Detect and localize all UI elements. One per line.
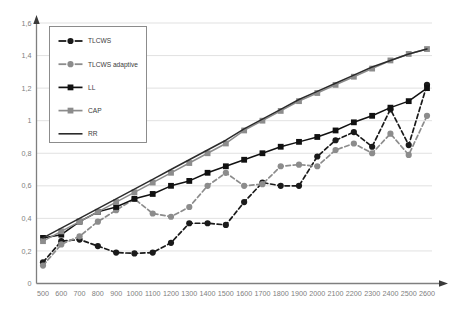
x-tick-label: 1800: [273, 289, 289, 298]
data-point: [168, 183, 174, 189]
data-point: [259, 181, 265, 187]
y-tick-label: 1,6: [22, 19, 32, 28]
data-point: [314, 163, 320, 169]
data-point: [332, 147, 338, 153]
data-point: [296, 162, 302, 168]
y-tick-label: 0: [28, 279, 32, 288]
data-point: [223, 163, 229, 169]
x-axis-arrowhead: [439, 280, 448, 286]
data-point: [223, 170, 229, 176]
data-point: [278, 183, 284, 189]
line-chart: 00,20,40,60,811,21,41,6 5006007008009001…: [0, 0, 456, 309]
x-tick-label: 1900: [291, 289, 307, 298]
data-point: [204, 220, 210, 226]
data-point: [369, 144, 375, 150]
chart-legend: TLCWSTLCWS adaptiveLLCAPRR: [50, 27, 147, 143]
x-tick-label: 2400: [382, 289, 398, 298]
data-point: [314, 134, 320, 140]
legend-marker: [68, 85, 74, 91]
data-point: [369, 150, 375, 156]
x-tick-label: 1500: [218, 289, 234, 298]
x-tick-label: 1700: [254, 289, 270, 298]
x-tick-label: 1200: [163, 289, 179, 298]
data-point: [40, 262, 46, 268]
data-point: [205, 170, 211, 176]
data-point: [95, 219, 101, 225]
data-point: [406, 142, 412, 148]
x-tick-label: 700: [74, 289, 86, 298]
data-point: [424, 113, 430, 119]
legend-label: TLCWS adaptive: [88, 61, 138, 69]
x-tick-label: 1300: [181, 289, 197, 298]
x-tick-label: 1600: [236, 289, 252, 298]
data-point: [186, 220, 192, 226]
y-tick-label: 0,2: [22, 247, 32, 256]
x-tick-label: 600: [55, 289, 67, 298]
x-tick-label: 1400: [200, 289, 216, 298]
x-tick-label: 1000: [126, 289, 142, 298]
data-point: [132, 196, 138, 202]
data-point: [351, 129, 357, 135]
data-point: [113, 249, 119, 255]
data-point: [150, 210, 156, 216]
legend-label: RR: [88, 130, 98, 137]
data-point: [332, 137, 338, 143]
legend-marker: [67, 61, 73, 67]
data-point: [260, 150, 266, 156]
x-axis-tick-labels: 5006007008009001000110012001300140015001…: [37, 289, 435, 298]
data-point: [150, 191, 156, 197]
data-point: [278, 144, 284, 150]
data-point: [314, 153, 320, 159]
y-axis-tick-labels: 00,20,40,60,811,21,41,6: [22, 19, 32, 289]
data-point: [369, 113, 375, 119]
data-point: [186, 178, 192, 184]
x-tick-label: 800: [92, 289, 104, 298]
y-tick-label: 1,4: [22, 51, 32, 60]
data-point: [168, 214, 174, 220]
data-point: [95, 243, 101, 249]
chart-canvas: 00,20,40,60,811,21,41,6 5006007008009001…: [0, 0, 456, 309]
x-tick-label: 500: [37, 289, 49, 298]
x-tick-label: 900: [110, 289, 122, 298]
data-point: [186, 204, 192, 210]
data-point: [296, 183, 302, 189]
y-tick-label: 0,8: [22, 149, 32, 158]
legend-label: TLCWS: [88, 37, 112, 44]
data-point: [406, 98, 412, 104]
data-point: [333, 128, 339, 134]
data-point: [351, 140, 357, 146]
y-axis-arrowhead: [33, 15, 39, 24]
data-point: [241, 183, 247, 189]
data-point: [204, 183, 210, 189]
data-point: [241, 157, 247, 163]
data-point: [131, 250, 137, 256]
y-tick-label: 0,6: [22, 181, 32, 190]
data-point: [76, 233, 82, 239]
data-point: [406, 152, 412, 158]
x-tick-label: 2300: [364, 289, 380, 298]
data-point: [424, 85, 430, 91]
legend-marker: [68, 108, 74, 114]
x-tick-label: 2500: [401, 289, 417, 298]
y-tick-label: 0,4: [22, 214, 32, 223]
data-point: [150, 249, 156, 255]
data-point: [278, 163, 284, 169]
data-point: [40, 238, 46, 244]
legend-label: CAP: [88, 107, 102, 114]
data-point: [241, 199, 247, 205]
y-tick-label: 1: [28, 116, 32, 125]
data-point: [58, 241, 64, 247]
x-tick-label: 2000: [309, 289, 325, 298]
data-point: [223, 222, 229, 228]
legend-marker: [67, 38, 73, 44]
data-point: [387, 131, 393, 137]
data-point: [388, 105, 394, 111]
y-tick-label: 1,2: [22, 84, 32, 93]
data-point: [168, 240, 174, 246]
x-tick-label: 1100: [145, 289, 160, 298]
data-point: [351, 119, 357, 125]
x-tick-label: 2600: [419, 289, 435, 298]
legend-label: LL: [88, 84, 96, 91]
x-tick-label: 2100: [328, 289, 344, 298]
data-point: [296, 139, 302, 145]
